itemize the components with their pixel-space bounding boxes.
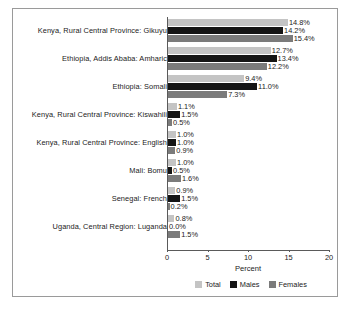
bar-females xyxy=(168,119,172,126)
x-axis-tick-label: 10 xyxy=(244,253,252,262)
bar-males xyxy=(168,55,277,62)
chart-frame: Kenya, Rural Central Province: GikuyuEth… xyxy=(12,8,338,297)
bar-total xyxy=(168,47,271,54)
category-label: Ethiopia: Somali xyxy=(112,82,167,91)
x-axis-tick-label: 0 xyxy=(165,253,169,262)
x-axis-tick-mark xyxy=(248,250,249,252)
legend-swatch-males-icon xyxy=(230,281,237,288)
legend-item-females[interactable]: Females xyxy=(269,280,307,289)
bar-value-label: 1.6% xyxy=(182,175,199,183)
chart-plot-area: Kenya, Rural Central Province: GikuyuEth… xyxy=(13,9,339,298)
category-label: Kenya, Rural Central Province: Kiswahili xyxy=(32,110,167,119)
bar-females xyxy=(168,63,267,70)
x-axis-title: Percent xyxy=(167,264,329,273)
legend-item-males[interactable]: Males xyxy=(230,280,260,289)
bar-total xyxy=(168,131,176,138)
bar-males xyxy=(168,195,180,202)
legend-swatch-females-icon xyxy=(269,281,276,288)
bar-females xyxy=(168,175,181,182)
bar-females xyxy=(168,35,293,42)
bar-total xyxy=(168,159,176,166)
bar-value-label: 12.2% xyxy=(268,63,289,71)
bar-total xyxy=(168,75,244,82)
legend-swatch-total-icon xyxy=(195,281,202,288)
category-label: Kenya, Rural Central Province: English xyxy=(36,138,167,147)
bar-females xyxy=(168,203,170,210)
x-axis-tick-label: 15 xyxy=(284,253,292,262)
bar-total xyxy=(168,187,175,194)
legend-label-males: Males xyxy=(240,280,260,289)
bar-value-label: 1.5% xyxy=(181,231,198,239)
x-axis-tick-mark xyxy=(208,250,209,252)
bar-males xyxy=(168,27,283,34)
category-label: Kenya, Rural Central Province: Gikuyu xyxy=(38,26,167,35)
chart-legend: Total Males Females xyxy=(167,280,335,289)
category-label: Senegal: French xyxy=(112,194,167,203)
category-label: Mali: Bomu xyxy=(129,166,167,175)
legend-item-total[interactable]: Total xyxy=(195,280,221,289)
legend-label-total: Total xyxy=(205,280,221,289)
bar-value-label: 7.3% xyxy=(228,91,245,99)
bar-total xyxy=(168,103,177,110)
x-axis-tick-mark xyxy=(329,250,330,252)
bar-females xyxy=(168,91,227,98)
bar-total xyxy=(168,19,288,26)
category-label: Ethiopia, Addis Ababa: Amharic xyxy=(62,54,167,63)
category-label: Uganda, Central Region: Luganda xyxy=(53,222,167,231)
bar-value-label: 15.4% xyxy=(294,35,315,43)
bar-females xyxy=(168,147,175,154)
x-axis-tick-label: 20 xyxy=(325,253,333,262)
bar-males xyxy=(168,83,257,90)
legend-label-females: Females xyxy=(279,280,307,289)
bar-value-label: 0.5% xyxy=(173,119,190,127)
bar-value-label: 0.9% xyxy=(176,147,193,155)
bar-value-label: 0.2% xyxy=(171,203,188,211)
bar-males xyxy=(168,167,172,174)
bar-males xyxy=(168,139,176,146)
bar-total xyxy=(168,215,174,222)
bar-value-label: 11.0% xyxy=(258,83,278,91)
x-axis-tick-mark xyxy=(289,250,290,252)
bar-females xyxy=(168,231,180,238)
x-axis-tick-mark xyxy=(167,250,168,252)
bar-males xyxy=(168,111,180,118)
x-axis-tick-label: 5 xyxy=(205,253,209,262)
